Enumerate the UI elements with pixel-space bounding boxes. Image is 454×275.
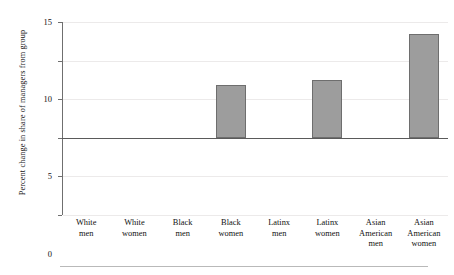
x-axis-tick-label: AsianAmericanwomen	[400, 218, 448, 250]
y-axis-tick-label: 5	[48, 171, 52, 181]
x-axis-tick-label-line: men	[62, 229, 110, 240]
bar-slot	[303, 22, 351, 215]
x-axis-tick-label: AsianAmericanmen	[352, 218, 400, 250]
y-axis-tick-label: 15	[44, 17, 53, 27]
bar-chart-figure: Percent change in share of managers from…	[0, 0, 454, 275]
x-axis-tick-label-line: Black	[159, 218, 207, 229]
bar-slot	[159, 22, 207, 215]
x-axis-tick-label-line: Asian	[352, 218, 400, 229]
y-axis-tick: −10	[58, 215, 62, 216]
x-axis-tick-label-line: Latinx	[255, 218, 303, 229]
bar[interactable]	[312, 80, 342, 138]
bar-slot	[110, 22, 158, 215]
x-axis-tick-label: Blackmen	[159, 218, 207, 239]
gridline	[63, 215, 448, 216]
x-axis-tick-label-line: men	[352, 239, 400, 250]
bar-slot	[255, 22, 303, 215]
x-axis-tick-label: Blackwomen	[207, 218, 255, 239]
bar[interactable]	[409, 34, 439, 137]
bar-slot	[62, 22, 110, 215]
x-axis-tick-label-line: White	[110, 218, 158, 229]
x-axis-tick-label-line: women	[303, 229, 351, 240]
x-axis-tick-label-line: men	[255, 229, 303, 240]
x-axis-tick-label-line: Asian	[400, 218, 448, 229]
x-axis-tick-label-line: women	[110, 229, 158, 240]
x-axis-tick-label-line: Latinx	[303, 218, 351, 229]
x-axis-tick-label-line: men	[159, 229, 207, 240]
y-axis-tick-label: 10	[44, 94, 53, 104]
bar-slot	[400, 22, 448, 215]
x-axis-tick-label-line: Black	[207, 218, 255, 229]
plot-area: 151050−5−10	[62, 22, 448, 215]
y-axis-tick-label: 0	[48, 249, 52, 259]
x-axis-tick-label: Whitemen	[62, 218, 110, 239]
x-axis-tick-labels: WhitemenWhitewomenBlackmenBlackwomenLati…	[62, 218, 448, 260]
x-axis-tick-label: Latinxmen	[255, 218, 303, 239]
x-axis-tick-label-line: American	[352, 229, 400, 240]
x-axis-tick-label-line: women	[400, 239, 448, 250]
x-axis-tick-label-line: American	[400, 229, 448, 240]
bar-slot	[352, 22, 400, 215]
x-axis-tick-label: Latinxwomen	[303, 218, 351, 239]
x-axis-tick-label: Whitewomen	[110, 218, 158, 239]
footer-rule	[60, 266, 428, 267]
bar-slot	[207, 22, 255, 215]
x-axis-tick-label-line: White	[62, 218, 110, 229]
y-axis-title: Percent change in share of managers from…	[18, 13, 27, 213]
x-axis-tick-label-line: women	[207, 229, 255, 240]
bar[interactable]	[216, 85, 246, 137]
